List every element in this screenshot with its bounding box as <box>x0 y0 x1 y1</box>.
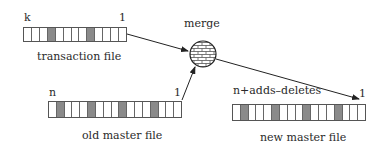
record-cell <box>24 28 32 41</box>
old-master-record-bar <box>48 101 182 118</box>
record-cell-shaded <box>57 102 65 117</box>
record-cell <box>143 102 151 117</box>
record-cell <box>72 28 80 41</box>
brick-wall-icon <box>190 41 216 67</box>
record-cell-shaded <box>48 28 56 41</box>
record-cell-shaded <box>151 102 159 117</box>
edge-oldmaster-to-merge <box>182 67 195 100</box>
record-cell <box>233 105 241 120</box>
record-cell <box>95 28 103 41</box>
record-cell <box>319 105 327 120</box>
record-cell-shaded <box>335 105 343 120</box>
record-cell <box>111 28 119 41</box>
record-cell <box>350 105 358 120</box>
record-cell <box>56 28 64 41</box>
new-master-label: new master file <box>260 132 346 144</box>
record-cell <box>79 28 87 41</box>
record-cell <box>280 105 288 120</box>
record-cell <box>72 102 80 117</box>
edge-transaction-to-merge <box>127 34 188 51</box>
record-cell <box>256 105 264 120</box>
merge-label: merge <box>184 18 220 30</box>
record-cell <box>249 105 257 120</box>
record-cell <box>343 105 351 120</box>
record-cell <box>358 105 365 120</box>
old-master-label: old master file <box>82 130 162 142</box>
record-cell-shaded <box>119 102 127 117</box>
record-cell <box>119 28 126 41</box>
record-cell <box>64 28 72 41</box>
record-cell <box>135 102 143 117</box>
record-cell <box>166 102 174 117</box>
new-master-left-index: n+adds–deletes <box>233 85 321 97</box>
record-cell <box>174 102 181 117</box>
record-cell-shaded <box>88 102 96 117</box>
transaction-file-left-index: k <box>24 12 31 24</box>
record-cell <box>112 102 120 117</box>
merge-node <box>190 41 216 67</box>
record-cell <box>65 102 73 117</box>
old-master-left-index: n <box>49 87 56 99</box>
record-cell <box>311 105 319 120</box>
old-master-right-index: 1 <box>174 87 181 99</box>
record-cell <box>296 105 304 120</box>
record-cell <box>264 105 272 120</box>
new-master-right-index: 1 <box>359 88 366 100</box>
record-cell <box>49 102 57 117</box>
record-cell <box>103 28 111 41</box>
record-cell-shaded <box>303 105 311 120</box>
record-cell-shaded <box>241 105 249 120</box>
record-cell <box>96 102 104 117</box>
record-cell <box>32 28 40 41</box>
transaction-file-record-bar <box>23 27 127 42</box>
record-cell <box>40 28 48 41</box>
record-cell <box>159 102 167 117</box>
record-cell <box>288 105 296 120</box>
new-master-record-bar <box>232 104 366 121</box>
record-cell <box>80 102 88 117</box>
record-cell <box>127 102 135 117</box>
record-cell <box>327 105 335 120</box>
record-cell-shaded <box>87 28 95 41</box>
transaction-file-right-index: 1 <box>119 12 126 24</box>
transaction-file-label: transaction file <box>37 51 121 63</box>
record-cell-shaded <box>272 105 280 120</box>
record-cell <box>104 102 112 117</box>
